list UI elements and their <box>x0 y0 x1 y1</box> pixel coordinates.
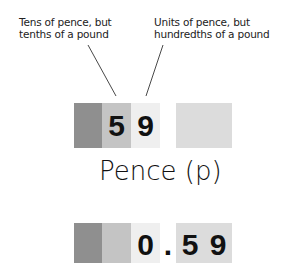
bottom-digit-whole: 0 <box>131 230 160 260</box>
annotation-units-of-pence: Units of pence, but hundredths of a poun… <box>154 16 270 40</box>
bottom-dark-column <box>74 223 102 263</box>
pointer-line-tens <box>88 45 116 96</box>
top-digit-units: 9 <box>131 111 160 141</box>
bottom-digit-tenths: 5 <box>176 230 204 260</box>
annotation-left-line2: tenths of a pound <box>19 28 112 40</box>
unit-label: Pence (p) <box>99 156 222 186</box>
pointer-line-units <box>146 45 163 96</box>
annotation-right-line2: hundredths of a pound <box>154 28 270 40</box>
bottom-decimal-point: . <box>160 230 176 260</box>
annotation-right-line1: Units of pence, but <box>154 16 270 28</box>
top-right-block <box>176 103 232 148</box>
annotation-left-line1: Tens of pence, but <box>19 16 112 28</box>
bottom-digit-hundredths: 9 <box>204 230 232 260</box>
top-dark-column <box>74 103 102 148</box>
top-digit-tens: 5 <box>102 111 131 141</box>
annotation-tens-of-pence: Tens of pence, but tenths of a pound <box>19 16 112 40</box>
bottom-mid-column <box>102 223 131 263</box>
